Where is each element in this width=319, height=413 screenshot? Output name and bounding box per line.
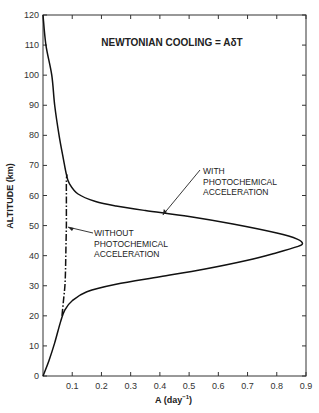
y-tick-label: 30 xyxy=(29,281,39,291)
y-axis-label: ALTITUDE (km) xyxy=(5,163,15,228)
without-acceleration-label: ACCELERATION xyxy=(94,249,160,259)
x-tick-label: 0.1 xyxy=(66,381,79,391)
without-acceleration-label: PHOTOCHEMICAL xyxy=(94,239,168,249)
y-tick-label: 100 xyxy=(24,70,39,80)
x-tick-label: 0.4 xyxy=(154,381,167,391)
without-acceleration-curve xyxy=(62,174,67,315)
y-tick-label: 110 xyxy=(25,40,39,50)
chart-title: NEWTONIAN COOLING = AδT xyxy=(101,37,242,48)
y-tick-label: 80 xyxy=(29,130,39,140)
x-tick-label: 0.9 xyxy=(300,381,313,391)
y-tick-label: 90 xyxy=(29,100,39,110)
y-tick-label: 60 xyxy=(29,191,39,201)
without-acceleration-label: WITHOUT xyxy=(94,228,134,238)
x-tick-label: 0.5 xyxy=(183,381,196,391)
y-tick-label: 70 xyxy=(29,160,39,170)
y-tick-label: 20 xyxy=(29,311,39,321)
with-acceleration-label: WITH xyxy=(203,166,225,176)
y-tick-label: 120 xyxy=(24,10,39,20)
with-acceleration-label: ACCELERATION xyxy=(203,187,269,197)
x-tick-label: 0.6 xyxy=(212,381,225,391)
y-tick-label: 10 xyxy=(29,341,39,351)
annotations: WITHPHOTOCHEMICALACCELERATIONWITHOUTPHOT… xyxy=(68,166,277,259)
x-tick-label: 0.2 xyxy=(95,381,108,391)
y-tick-label: 40 xyxy=(29,251,39,261)
x-tick-label: 0.7 xyxy=(241,381,254,391)
x-axis-label: A (day−1) xyxy=(155,394,192,405)
x-tick-label: 0.8 xyxy=(271,381,284,391)
x-tick-label: 0.3 xyxy=(124,381,137,391)
y-tick-label: 50 xyxy=(29,221,39,231)
y-tick-label: 0 xyxy=(34,371,39,381)
altitude-cooling-chart: 0102030405060708090100110120 0.10.20.30.… xyxy=(0,0,319,413)
with-acceleration-label: PHOTOCHEMICAL xyxy=(203,177,277,187)
